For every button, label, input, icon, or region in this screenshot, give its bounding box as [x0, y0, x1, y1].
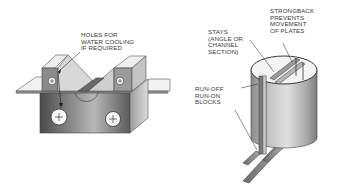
- support-rail-left: [243, 151, 261, 165]
- stays-label: STAYS (ANGLE OR CHANNEL SECTION): [208, 29, 243, 55]
- label-line: OF PLATES: [270, 28, 314, 35]
- runoff-block-face: [263, 76, 266, 154]
- label-line: BLOCKS: [195, 99, 224, 106]
- cooling-block-figure: [16, 52, 170, 133]
- cylinder-figure: [235, 40, 317, 183]
- label-line: SECTION): [208, 49, 243, 56]
- label-line: IF REQUIRED: [81, 45, 134, 52]
- strongback-label: STRONGBACK PREVENTS MOVEMENT OF PLATES: [270, 8, 314, 34]
- runoff-label: RUN-OFF RUN-ON BLOCKS: [195, 86, 224, 106]
- holes-label: HOLES FOR WATER COOLING IF REQUIRED: [81, 32, 134, 52]
